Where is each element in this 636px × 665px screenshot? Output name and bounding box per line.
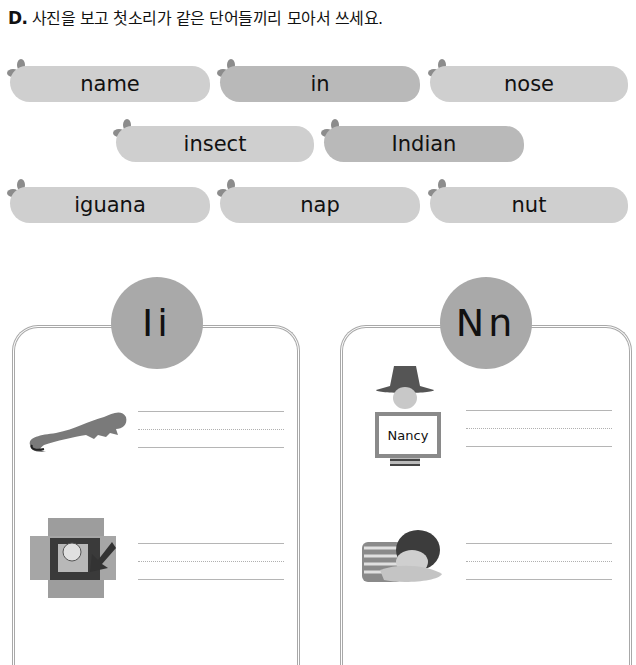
panel-i xyxy=(12,325,300,665)
word-chip[interactable]: nut xyxy=(430,187,628,223)
word-label: nose xyxy=(504,72,554,96)
word-label: insect xyxy=(184,132,247,156)
gift-in-box-picture xyxy=(28,516,116,600)
word-label: iguana xyxy=(74,193,146,217)
word-chip[interactable]: Indian xyxy=(324,126,524,162)
sign-text: Nancy xyxy=(388,428,429,443)
word-label: nap xyxy=(300,193,340,217)
instruction-text: 사진을 보고 첫소리가 같은 단어들끼리 모아서 쓰세요. xyxy=(32,9,383,28)
word-chip[interactable]: in xyxy=(220,66,420,102)
letter-circle-i: Ii xyxy=(111,277,203,369)
word-chip[interactable]: nose xyxy=(430,66,628,102)
writing-lines[interactable] xyxy=(138,411,284,448)
instruction-heading: D.사진을 보고 첫소리가 같은 단어들끼리 모아서 쓰세요. xyxy=(8,5,383,29)
exercise-letter: D. xyxy=(8,8,28,28)
word-label: in xyxy=(310,72,329,96)
name-sign: Nancy xyxy=(375,412,441,458)
writing-lines[interactable] xyxy=(138,543,284,580)
letter-label: Nn xyxy=(456,301,517,345)
letter-circle-n: Nn xyxy=(440,277,532,369)
word-chip[interactable]: nap xyxy=(220,187,420,223)
word-chip[interactable]: insect xyxy=(116,126,314,162)
writing-lines[interactable] xyxy=(466,543,612,580)
writing-lines[interactable] xyxy=(466,410,612,447)
boy-napping-picture xyxy=(360,526,444,586)
letter-label: Ii xyxy=(142,301,172,345)
word-chip[interactable]: iguana xyxy=(10,187,210,223)
word-label: nut xyxy=(512,193,547,217)
word-chip[interactable]: name xyxy=(10,66,210,102)
word-label: Indian xyxy=(392,132,457,156)
iguana-picture xyxy=(26,405,130,453)
word-label: name xyxy=(80,72,140,96)
